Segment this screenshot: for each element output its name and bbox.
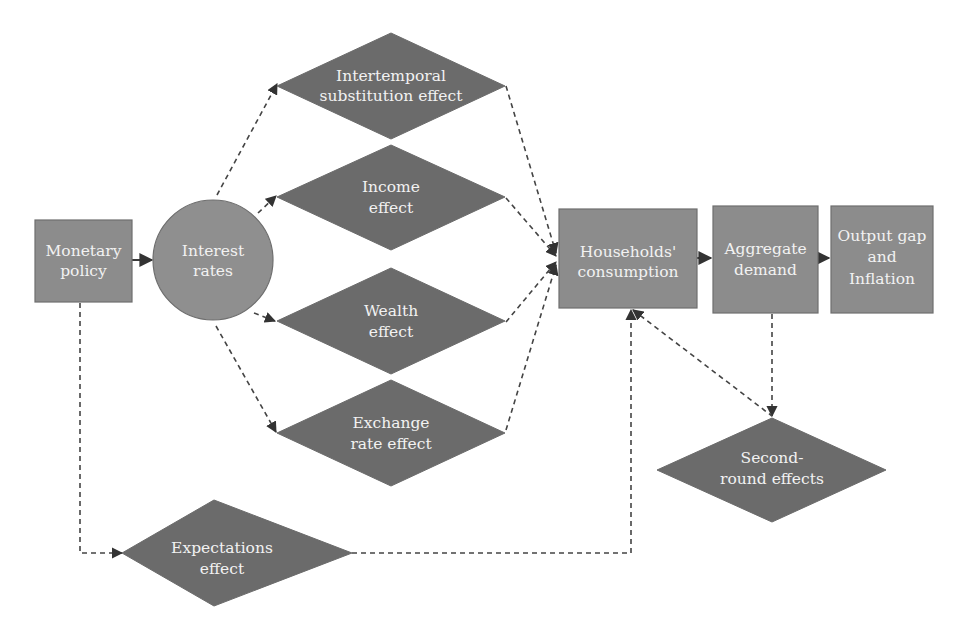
node-intertemporal-substitution-effect: Intertemporal substitution effect xyxy=(277,33,505,139)
edge-interest-to-wealth xyxy=(254,313,275,321)
node-exchange-rate-effect: Exchange rate effect xyxy=(277,380,505,486)
node-label: rate effect xyxy=(350,435,432,453)
node-label: Income xyxy=(362,178,420,196)
node-label: Output gap xyxy=(837,227,926,245)
node-label: Wealth xyxy=(364,302,418,320)
node-label: and xyxy=(867,248,896,266)
edge-monetary-to-expectations xyxy=(80,303,122,553)
node-label: Intertemporal xyxy=(336,67,446,85)
node-label: Households' xyxy=(580,243,676,261)
node-label: effect xyxy=(200,560,245,578)
node-label: Inflation xyxy=(849,270,915,288)
node-label: Interest xyxy=(182,242,245,260)
edge-interest-to-intertemporal xyxy=(217,84,277,195)
node-households-consumption: Households' consumption xyxy=(559,209,697,308)
edge-households-second-round xyxy=(633,310,772,416)
node-interest-rates: Interest rates xyxy=(153,200,273,320)
node-income-effect: Income effect xyxy=(277,145,505,250)
node-second-round-effects: Second- round effects xyxy=(657,418,886,522)
node-monetary-policy: Monetary policy xyxy=(35,220,132,302)
node-label: Monetary xyxy=(46,242,122,260)
node-label: Aggregate xyxy=(723,240,806,258)
node-label: policy xyxy=(60,262,107,280)
edge-interest-to-income xyxy=(258,196,276,213)
node-label: substitution effect xyxy=(320,87,464,105)
node-output-gap-inflation: Output gap and Inflation xyxy=(831,206,933,313)
node-label: round effects xyxy=(720,470,824,488)
transmission-diagram: Monetary policy Interest rates Intertemp… xyxy=(0,0,970,628)
node-label: rates xyxy=(193,262,233,280)
node-label: Expectations xyxy=(171,539,273,557)
node-label: consumption xyxy=(577,263,678,281)
node-aggregate-demand: Aggregate demand xyxy=(713,206,818,313)
node-expectations-effect: Expectations effect xyxy=(122,500,352,606)
node-label: demand xyxy=(734,261,797,279)
node-label: Exchange xyxy=(352,414,429,432)
node-wealth-effect: Wealth effect xyxy=(277,268,505,374)
node-label: effect xyxy=(369,199,414,217)
node-label: Second- xyxy=(741,449,804,467)
node-label: effect xyxy=(369,323,414,341)
edge-interest-to-exchange xyxy=(216,326,276,432)
edge-exchange-to-households xyxy=(506,265,556,430)
